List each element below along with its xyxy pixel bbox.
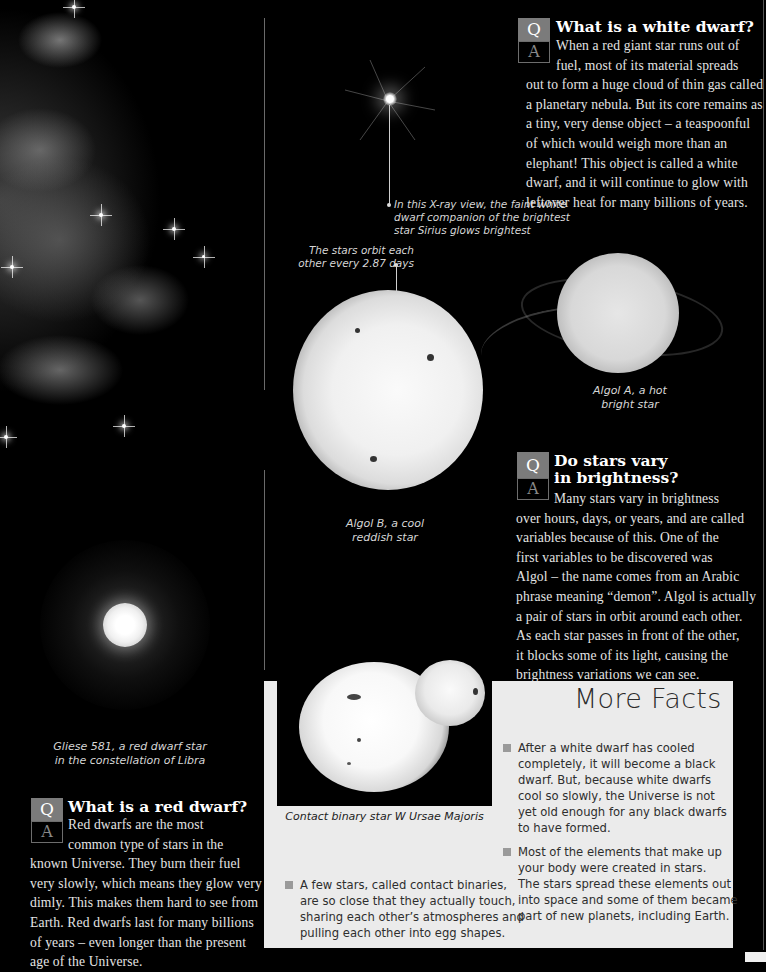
star-glint-icon bbox=[172, 227, 176, 231]
algol-b-caption: Algol B, a cool reddish star bbox=[310, 517, 460, 545]
answer-line: of years – even longer than the present bbox=[30, 933, 262, 953]
answer-line: variables because of this. One of the bbox=[516, 528, 756, 548]
contact-binary-caption: Contact binary star W Ursae Majoris bbox=[277, 810, 492, 823]
caption-line: star Sirius glows brightest bbox=[394, 224, 570, 237]
fact-line: yet old enough for any black dwarfs bbox=[518, 804, 727, 820]
answer-line: it blocks some of its light, causing the bbox=[516, 646, 756, 666]
brightness-answer: Many stars vary in brightness over hours… bbox=[516, 489, 756, 685]
fact-line: After a white dwarf has cooled bbox=[518, 740, 727, 756]
star-glint-icon bbox=[122, 424, 126, 428]
algol-b-image bbox=[293, 290, 483, 490]
brightness-question: Do stars vary in brightness? bbox=[554, 452, 678, 486]
answer-line: a planetary nebula. But its core remains… bbox=[526, 95, 763, 115]
fact-line: part of new planets, including Earth. bbox=[518, 908, 738, 924]
fact-line: Most of the elements that make up bbox=[518, 844, 738, 860]
star-glint-icon bbox=[202, 255, 205, 258]
caption-leader-line bbox=[389, 105, 390, 205]
caption-line: Algol B, a cool bbox=[310, 517, 460, 531]
answer-line: very slowly, which means they glow very bbox=[30, 874, 262, 894]
fact-line: sharing each other’s atmospheres and bbox=[300, 909, 524, 925]
sunspot bbox=[347, 762, 351, 765]
caption-line: in the constellation of Libra bbox=[30, 754, 230, 768]
fact-line: are so close that they actually touch, bbox=[300, 893, 524, 909]
algol-a-image bbox=[557, 253, 679, 373]
caption-line: reddish star bbox=[310, 531, 460, 545]
answer-line: fuel, most of its material spreads bbox=[526, 56, 763, 76]
caption-line: Algol A, a hot bbox=[560, 384, 700, 398]
algol-a-caption: Algol A, a hot bright star bbox=[560, 384, 700, 412]
sunspot bbox=[473, 688, 478, 695]
fact-line: into space and some of them became bbox=[518, 892, 738, 908]
fact-line: pulling each other into egg shapes. bbox=[300, 925, 524, 941]
sirius-xray-image bbox=[383, 92, 397, 106]
sunspot bbox=[357, 738, 361, 742]
page-edge bbox=[763, 0, 764, 950]
answer-line: known Universe. They burn their fuel bbox=[30, 854, 262, 874]
caption-line: dwarf companion of the brightest bbox=[394, 211, 570, 224]
gliese-caption: Gliese 581, a red dwarf star in the cons… bbox=[30, 740, 230, 768]
contact-binary-image bbox=[277, 640, 492, 806]
sunspot bbox=[347, 694, 361, 700]
answer-line: first variables to be discovered was bbox=[516, 548, 756, 568]
answer-line: out to form a huge cloud of thin gas cal… bbox=[526, 75, 763, 95]
fact-line: completely, it will become a black bbox=[518, 756, 727, 772]
more-facts-title: More Facts bbox=[574, 683, 722, 714]
fact-line: to have formed. bbox=[518, 820, 727, 836]
divider bbox=[264, 18, 265, 390]
sunspot bbox=[427, 354, 434, 361]
star-glint-icon bbox=[10, 265, 14, 269]
nebula-photo bbox=[0, 0, 250, 470]
bullet-square-icon bbox=[285, 881, 293, 889]
star-glint-icon bbox=[4, 435, 8, 439]
answer-line: leftover heat for many billions of years… bbox=[526, 193, 763, 213]
fact-line: A few stars, called contact binaries, bbox=[300, 877, 524, 893]
more-facts-item: Most of the elements that make up your b… bbox=[518, 844, 738, 924]
gliese-581-image bbox=[103, 603, 147, 647]
answer-line: Many stars vary in brightness bbox=[516, 489, 756, 509]
answer-line: age of the Universe. bbox=[30, 952, 262, 972]
red-dwarf-answer: Red dwarfs are the most common type of s… bbox=[30, 815, 262, 972]
fact-line: The stars spread these elements out bbox=[518, 876, 738, 892]
white-dwarf-answer: When a red giant star runs out of fuel, … bbox=[526, 36, 763, 212]
caption-pointer-dot bbox=[387, 203, 391, 207]
answer-line: Earth. Red dwarfs last for many billions bbox=[30, 913, 262, 933]
fact-line: dwarf. But, because white dwarfs bbox=[518, 772, 727, 788]
divider bbox=[264, 470, 265, 670]
answer-line: a tiny, very dense object – a teaspoonfu… bbox=[526, 114, 763, 134]
answer-line: Algol – the name comes from an Arabic bbox=[516, 567, 756, 587]
answer-line: When a red giant star runs out of bbox=[526, 36, 763, 56]
bullet-square-icon bbox=[503, 744, 511, 752]
fact-line: cool so slowly, the Universe is not bbox=[518, 788, 727, 804]
bullet-square-icon bbox=[503, 848, 511, 856]
answer-line: of which would weigh more than an bbox=[526, 134, 763, 154]
sunspot bbox=[355, 328, 360, 333]
sunspot bbox=[370, 456, 377, 462]
star-glint-icon bbox=[99, 213, 103, 217]
question-line: Do stars vary bbox=[554, 452, 678, 469]
red-dwarf-question: What is a red dwarf? bbox=[68, 798, 247, 815]
white-dwarf-question: What is a white dwarf? bbox=[556, 18, 754, 35]
more-facts-item: After a white dwarf has cooled completel… bbox=[518, 740, 727, 836]
caption-line: bright star bbox=[560, 398, 700, 412]
caption-line: Gliese 581, a red dwarf star bbox=[30, 740, 230, 754]
page-edge-tab bbox=[745, 952, 766, 962]
question-line: in brightness? bbox=[554, 469, 678, 486]
answer-line: common type of stars in the bbox=[30, 835, 262, 855]
answer-line: phrase meaning “demon”. Algol is actuall… bbox=[516, 587, 756, 607]
fact-line: your body were created in stars. bbox=[518, 860, 738, 876]
answer-line: elephant! This object is called a white bbox=[526, 154, 763, 174]
q-label: Q bbox=[517, 452, 549, 478]
star-glint-icon bbox=[72, 5, 76, 9]
answer-line: over hours, days, or years, and are call… bbox=[516, 509, 756, 529]
contact-binary-fact: A few stars, called contact binaries, ar… bbox=[300, 877, 524, 941]
caption-line: The stars orbit each bbox=[292, 244, 414, 257]
answer-line: Red dwarfs are the most bbox=[30, 815, 262, 835]
answer-line: As each star passes in front of the othe… bbox=[516, 626, 756, 646]
answer-line: dimly. This makes them hard to see from bbox=[30, 893, 262, 913]
answer-line: dwarf, and it will continue to glow with bbox=[526, 173, 763, 193]
contact-binary-secondary bbox=[415, 660, 485, 726]
answer-line: a pair of stars in orbit around each oth… bbox=[516, 607, 756, 627]
